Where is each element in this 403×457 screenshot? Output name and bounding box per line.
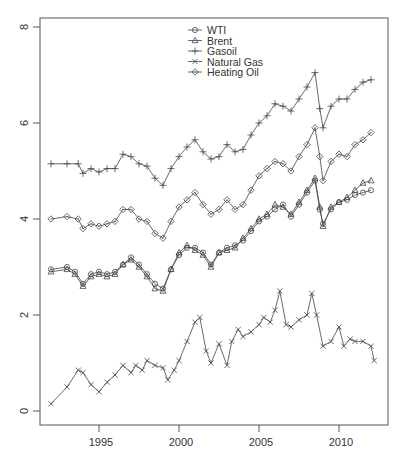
x-tick-label: 1995 (89, 436, 113, 448)
x-axis: 1995200020052010 (89, 425, 353, 448)
line-chart: 02468 1995200020052010 WTIBrentGasoilNat… (0, 0, 403, 457)
series-natural-gas (48, 288, 376, 406)
y-tick-label: 6 (18, 120, 30, 126)
series-brent (48, 175, 374, 293)
y-tick-label: 8 (18, 24, 30, 30)
legend-label: Heating Oil (207, 66, 259, 78)
x-tick-label: 2010 (329, 436, 353, 448)
y-tick-label: 2 (18, 312, 30, 318)
y-axis: 02468 (18, 24, 40, 414)
y-tick-label: 4 (18, 216, 30, 222)
x-tick-label: 2000 (169, 436, 193, 448)
x-tick-label: 2005 (249, 436, 273, 448)
y-tick-label: 0 (18, 408, 30, 414)
series-gasoil (48, 69, 375, 189)
legend: WTIBrentGasoilNatural GasHeating Oil (188, 24, 263, 78)
legend-item: Heating Oil (188, 66, 259, 78)
series-layer (48, 69, 377, 406)
